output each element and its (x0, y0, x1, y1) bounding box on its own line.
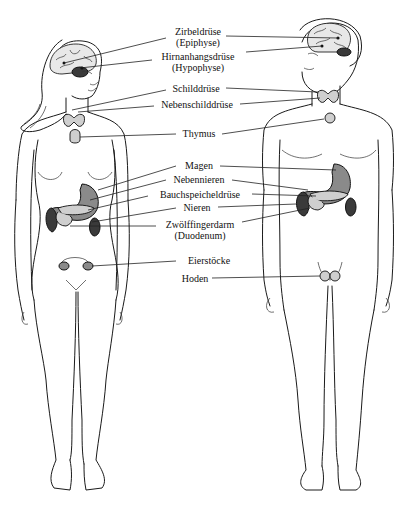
label-magen-name: Magen (185, 160, 213, 171)
label-zirbeldruese-name: Zirbeldrüse (175, 26, 221, 37)
label-nebenschilddruese-name: Nebenschilddrüse (161, 99, 233, 110)
endocrine-diagram: Zirbeldrüse (Epiphyse) Hirnanhangsdrüse … (0, 0, 405, 509)
label-thymus: Thymus (183, 128, 216, 139)
label-schilddruese: Schilddrüse (172, 83, 219, 94)
male-figure (263, 19, 394, 490)
label-hoden-name: Hoden (182, 273, 209, 284)
label-hirnanhangsdruese-name: Hirnanhangsdrüse (162, 51, 235, 62)
label-nebenschilddruese: Nebenschilddrüse (161, 99, 233, 110)
label-hirnanhangsdruese: Hirnanhangsdrüse (Hypophyse) (162, 51, 235, 73)
label-nebennieren-name: Nebennieren (173, 174, 224, 185)
label-nieren: Nieren (183, 202, 210, 213)
label-magen: Magen (185, 160, 213, 171)
label-zirbeldruese-latin: (Epiphyse) (175, 37, 221, 48)
label-thymus-name: Thymus (183, 128, 216, 139)
label-eierstoecke: Eierstöcke (188, 255, 230, 266)
label-schilddruese-name: Schilddrüse (172, 83, 219, 94)
label-bauchspeicheldruese-name: Bauchspeicheldrüse (160, 189, 240, 200)
label-zwoelffingerdarm-name: Zwölffingerdarm (166, 219, 235, 230)
label-nieren-name: Nieren (183, 202, 210, 213)
label-hirnanhangsdruese-latin: (Hypophyse) (162, 62, 235, 73)
label-bauchspeicheldruese: Bauchspeicheldrüse (160, 189, 240, 200)
label-zwoelffingerdarm-latin: (Duodenum) (166, 230, 235, 241)
label-eierstoecke-name: Eierstöcke (188, 255, 230, 266)
label-nebennieren: Nebennieren (173, 174, 224, 185)
label-hoden: Hoden (182, 273, 209, 284)
label-zwoelffingerdarm: Zwölffingerdarm (Duodenum) (166, 219, 235, 241)
label-zirbeldruese: Zirbeldrüse (Epiphyse) (175, 26, 221, 48)
